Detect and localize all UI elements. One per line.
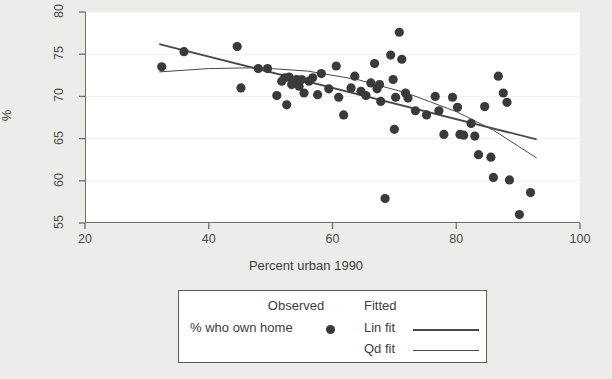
plot-frame <box>85 12 580 223</box>
y-tick-label: 75 <box>52 36 66 70</box>
legend-header-fitted: Fitted <box>364 298 397 313</box>
x-axis-title: Percent urban 1990 <box>0 258 612 273</box>
x-tick-label: 20 <box>65 232 105 246</box>
legend: Observed Fitted % who own home Lin fit Q… <box>178 290 487 363</box>
y-tick-label: 55 <box>52 205 66 239</box>
legend-marker-dot <box>326 325 335 334</box>
x-tick-label: 40 <box>189 232 229 246</box>
x-tick-label: 60 <box>313 232 353 246</box>
chart-canvas: 556065707580 20406080100 % Percent urban… <box>0 0 612 379</box>
legend-label-lin-fit: Lin fit <box>364 320 395 335</box>
y-tick-label: 60 <box>52 163 66 197</box>
plot-region: 556065707580 20406080100 % <box>0 0 612 250</box>
y-tick-label: 65 <box>52 121 66 155</box>
x-tick-label: 80 <box>436 232 476 246</box>
legend-label-qd-fit: Qd fit <box>364 341 395 356</box>
legend-line-lin-fit <box>413 329 479 331</box>
x-tick-label: 100 <box>560 232 600 246</box>
legend-line-qd-fit <box>413 350 479 351</box>
legend-header-observed: Observed <box>221 298 371 313</box>
legend-label-observed: % who own home <box>190 320 293 335</box>
y-tick-label: 80 <box>52 0 66 28</box>
y-axis-title: % <box>0 96 14 136</box>
y-tick-label: 70 <box>52 78 66 112</box>
